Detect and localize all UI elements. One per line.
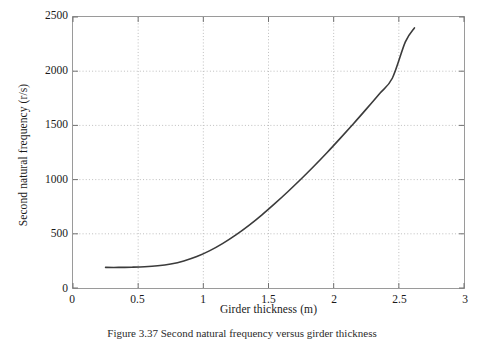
tick-marks (73, 17, 464, 288)
figure-caption: Figure 3.37 Second natural frequency ver… (0, 327, 484, 339)
vertical-gridlines (138, 17, 399, 288)
x-axis-label: Girder thickness (m) (72, 303, 465, 315)
plot-area (72, 16, 465, 289)
data-series-line (106, 28, 415, 268)
y-tick-label: 0 (24, 283, 68, 295)
y-tick-label: 2500 (24, 10, 68, 22)
y-tick-label: 1500 (24, 119, 68, 131)
y-tick-label: 1000 (24, 174, 68, 186)
y-axis-label: Second natural frequency (r/s) (14, 10, 32, 300)
y-tick-label: 500 (24, 228, 68, 240)
y-tick-label: 2000 (24, 65, 68, 77)
curve-svg (73, 17, 464, 288)
figure-container: Second natural frequency (r/s) 050010001… (0, 0, 484, 340)
